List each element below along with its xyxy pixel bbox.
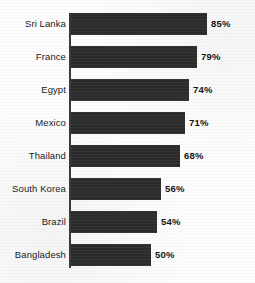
category-label: South Korea <box>12 178 66 200</box>
bar-row: Egypt 74% <box>0 79 255 112</box>
category-label: Sri Lanka <box>25 13 66 35</box>
bar-chart: Sri Lanka 85% France 79% Egypt 74% Mexic… <box>0 0 255 283</box>
value-label: 68% <box>184 145 204 167</box>
category-label: Thailand <box>29 145 66 167</box>
bar <box>71 145 180 167</box>
bar <box>71 13 207 35</box>
value-label: 50% <box>155 244 175 266</box>
bar <box>71 244 151 266</box>
bar <box>71 46 197 68</box>
value-label: 74% <box>193 79 213 101</box>
bar <box>71 112 185 134</box>
bar-row: France 79% <box>0 46 255 79</box>
value-label: 71% <box>189 112 209 134</box>
value-label: 85% <box>211 13 231 35</box>
bar-row: Bangladesh 50% <box>0 244 255 277</box>
category-label: Egypt <box>41 79 66 101</box>
value-label: 79% <box>201 46 221 68</box>
bar-row: South Korea 56% <box>0 178 255 211</box>
bar-row: Thailand 68% <box>0 145 255 178</box>
bar <box>71 211 157 233</box>
value-label: 54% <box>161 211 181 233</box>
bar-row: Brazil 54% <box>0 211 255 244</box>
plot-area: Sri Lanka 85% France 79% Egypt 74% Mexic… <box>0 13 255 269</box>
bar-row: Sri Lanka 85% <box>0 13 255 46</box>
category-label: Brazil <box>42 211 66 233</box>
bar-row: Mexico 71% <box>0 112 255 145</box>
value-label: 56% <box>165 178 185 200</box>
category-label: Mexico <box>35 112 66 134</box>
category-label: France <box>36 46 66 68</box>
bar <box>71 79 189 101</box>
bar <box>71 178 161 200</box>
category-label: Bangladesh <box>15 244 66 266</box>
